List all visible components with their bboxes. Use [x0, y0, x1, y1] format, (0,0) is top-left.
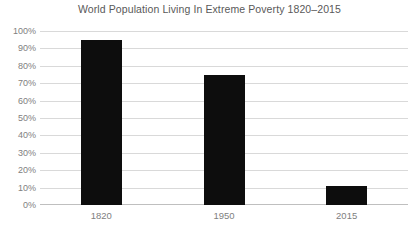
x-axis-tick-label: 2015: [317, 210, 377, 221]
y-axis-tick-label: 20%: [2, 166, 36, 175]
y-axis-tick-label: 90%: [2, 44, 36, 53]
y-axis-tick-label: 0%: [2, 201, 36, 210]
y-axis-tick-label: 50%: [2, 114, 36, 123]
y-axis-tick-label: 60%: [2, 96, 36, 105]
gridline: [40, 31, 408, 32]
x-axis-tick-label: 1950: [194, 210, 254, 221]
y-axis-tick-label: 80%: [2, 61, 36, 70]
chart-title: World Population Living In Extreme Pover…: [0, 3, 419, 15]
bar: [204, 75, 245, 206]
y-axis: 100%90%80%70%60%50%40%30%20%10%0%: [0, 31, 36, 205]
y-axis-tick-label: 10%: [2, 183, 36, 192]
bar-chart: World Population Living In Extreme Pover…: [0, 0, 419, 232]
y-axis-tick-label: 30%: [2, 148, 36, 157]
bar: [81, 40, 122, 205]
y-axis-tick-label: 100%: [2, 27, 36, 36]
bar: [326, 186, 367, 205]
y-axis-tick-label: 70%: [2, 79, 36, 88]
plot-area: [40, 31, 408, 205]
y-axis-tick-label: 40%: [2, 131, 36, 140]
x-axis-tick-label: 1820: [71, 210, 131, 221]
